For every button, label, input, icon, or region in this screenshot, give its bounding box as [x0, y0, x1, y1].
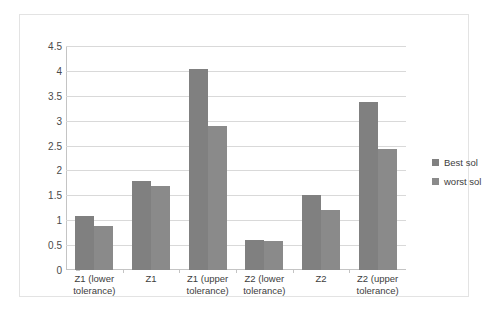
bar-group — [236, 46, 293, 270]
y-axis-tick-mark — [76, 270, 80, 271]
chart-frame: 00.511.522.533.544.5 Z1 (lower tolerance… — [19, 14, 469, 297]
bar[interactable] — [359, 102, 378, 270]
y-axis-tick-label: 3 — [56, 115, 62, 126]
x-axis-tick-label: Z2 — [293, 273, 350, 285]
bar[interactable] — [75, 216, 94, 270]
legend-swatch-icon — [432, 178, 439, 185]
bar[interactable] — [302, 195, 321, 270]
legend-item[interactable]: Best sol — [432, 153, 488, 172]
legend-item[interactable]: worst sol — [432, 172, 488, 191]
y-axis-tick-label: 3.5 — [48, 90, 62, 101]
x-axis-tick-label: Z1 (lower tolerance) — [66, 273, 123, 297]
bar-group — [349, 46, 406, 270]
legend-label: worst sol — [444, 176, 481, 187]
legend-label: Best sol — [444, 157, 478, 168]
x-axis-tick-mark — [179, 270, 180, 273]
bar[interactable] — [189, 69, 208, 270]
x-axis-tick-mark — [349, 270, 350, 273]
x-axis-tick-mark — [123, 270, 124, 273]
y-axis-tick-label: 4.5 — [48, 41, 62, 52]
bar-group — [293, 46, 350, 270]
bar[interactable] — [132, 181, 151, 270]
y-axis-tick-label: 2 — [56, 165, 62, 176]
bar[interactable] — [378, 149, 397, 270]
bar[interactable] — [264, 241, 283, 270]
bar[interactable] — [321, 210, 340, 270]
x-axis-tick-label: Z2 (lower tolerance) — [236, 273, 293, 297]
y-axis-tick-label: 1 — [56, 215, 62, 226]
x-axis-tick-label: Z1 (upper tolerance) — [179, 273, 236, 297]
plot-area — [66, 46, 406, 270]
bar[interactable] — [94, 226, 113, 270]
y-axis-tick-label: 2.5 — [48, 140, 62, 151]
bar-group — [179, 46, 236, 270]
x-axis-tick-label: Z1 — [123, 273, 180, 285]
bar-group — [123, 46, 180, 270]
bar[interactable] — [245, 240, 264, 270]
x-axis-tick-label: Z2 (upper tolerance) — [349, 273, 406, 297]
bar[interactable] — [151, 186, 170, 270]
x-axis-tick-mark — [236, 270, 237, 273]
y-axis-tick-label: 1.5 — [48, 190, 62, 201]
y-axis-tick-label: 0.5 — [48, 240, 62, 251]
y-axis-tick-label: 0 — [56, 265, 62, 276]
bar-group — [66, 46, 123, 270]
bar[interactable] — [208, 126, 227, 270]
y-axis: 00.511.522.533.544.5 — [34, 46, 62, 270]
legend-swatch-icon — [432, 159, 439, 166]
x-axis-tick-mark — [293, 270, 294, 273]
chart-legend: Best solworst sol — [432, 153, 488, 191]
x-axis: Z1 (lower tolerance)Z1Z1 (upper toleranc… — [66, 273, 406, 309]
y-axis-tick-label: 4 — [56, 65, 62, 76]
